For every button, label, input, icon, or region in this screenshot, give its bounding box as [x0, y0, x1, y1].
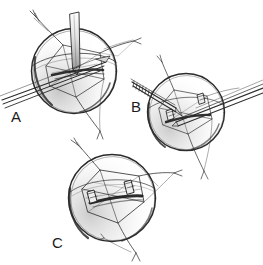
panel-label-a: A — [11, 108, 22, 125]
panel-b-group — [131, 55, 263, 179]
panel-label-b: B — [131, 98, 142, 115]
panel-label-c: C — [52, 234, 63, 251]
panel-b-forceps-serrations — [133, 81, 152, 97]
figure-canvas: A B C — [0, 0, 263, 265]
panel-c-group — [69, 138, 183, 261]
surgical-illustration — [0, 0, 263, 265]
